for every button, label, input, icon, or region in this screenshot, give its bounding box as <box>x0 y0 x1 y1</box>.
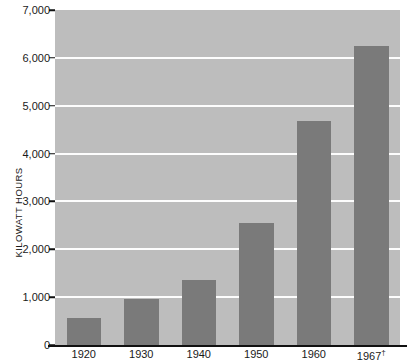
gridline-2000 <box>55 248 400 250</box>
y-axis-tick-7000 <box>49 9 55 11</box>
x-tick-label-1930: 1930 <box>129 348 153 360</box>
gridline-1000 <box>55 296 400 298</box>
x-tick-label-1950: 1950 <box>244 348 268 360</box>
bar-1960 <box>297 121 332 345</box>
bar-1950 <box>239 223 274 345</box>
y-tick-label-5000: 5,000 <box>0 100 50 112</box>
gridline-5000 <box>55 105 400 107</box>
bar-chart: KILOWATT HOURS 01,0002,0003,0004,0005,00… <box>0 0 419 360</box>
y-tick-label-4000: 4,000 <box>0 148 50 160</box>
y-tick-label-1000: 1,000 <box>0 291 50 303</box>
y-tick-label-6000: 6,000 <box>0 52 50 64</box>
gridline-6000 <box>55 57 400 59</box>
y-axis-tick-4000 <box>49 153 55 155</box>
y-axis-tick-5000 <box>49 105 55 107</box>
x-tick-label-1920: 1920 <box>72 348 96 360</box>
y-axis-tick-1000 <box>49 296 55 298</box>
x-tick-label-1940: 1940 <box>187 348 211 360</box>
gridline-4000 <box>55 153 400 155</box>
bar-1930 <box>124 299 159 345</box>
y-axis-tick-3000 <box>49 201 55 203</box>
footnote-marker: † <box>381 348 385 357</box>
gridline-3000 <box>55 200 400 202</box>
x-tick-label-1960: 1960 <box>302 348 326 360</box>
y-tick-label-3000: 3,000 <box>0 195 50 207</box>
x-axis-line <box>48 345 407 347</box>
bar-1940 <box>182 280 217 345</box>
y-axis-tick-6000 <box>49 57 55 59</box>
y-tick-label-7000: 7,000 <box>0 4 50 16</box>
bar-1920 <box>67 318 102 345</box>
y-tick-label-0: 0 <box>0 339 50 351</box>
x-axis-tick-labels: 192019301940195019601967† <box>55 348 400 360</box>
bar-1967 <box>354 46 389 345</box>
y-axis-tick-2000 <box>49 249 55 251</box>
y-tick-label-2000: 2,000 <box>0 243 50 255</box>
x-tick-label-1967: 1967† <box>357 348 386 360</box>
plot-area <box>55 10 400 345</box>
y-axis-tick-labels: 01,0002,0003,0004,0005,0006,0007,000 <box>0 0 50 360</box>
